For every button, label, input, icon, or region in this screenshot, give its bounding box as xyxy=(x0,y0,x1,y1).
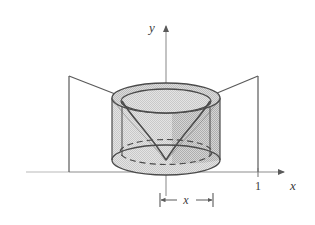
radius-dimension-label: x xyxy=(182,193,189,207)
x-axis-label: x xyxy=(289,178,296,193)
x-tick-1-label: 1 xyxy=(255,179,261,193)
figure-container: y x xyxy=(0,0,315,225)
y-axis-label: y xyxy=(147,20,155,35)
shell-top-inner-ellipse xyxy=(121,89,211,113)
cylindrical-shell-group xyxy=(112,83,220,175)
radius-dimension-group: x xyxy=(160,193,213,207)
shell-method-diagram: y x xyxy=(0,0,315,225)
